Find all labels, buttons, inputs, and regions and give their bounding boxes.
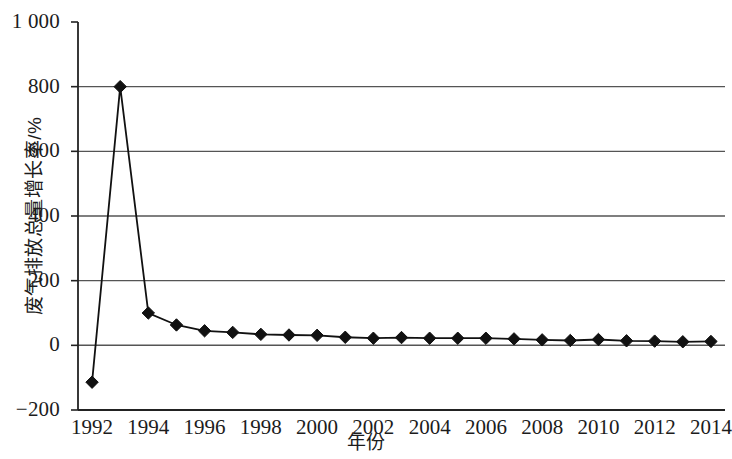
x-axis-tick-label-list: 1992199419961998200020022004200620082010… [0,0,732,459]
line-chart-figure: −20002004006008001 000 19921994199619982… [0,0,732,459]
y-axis-title: 废气排放总量增长率/% [24,86,46,346]
x-axis-title: 年份 [0,432,732,454]
